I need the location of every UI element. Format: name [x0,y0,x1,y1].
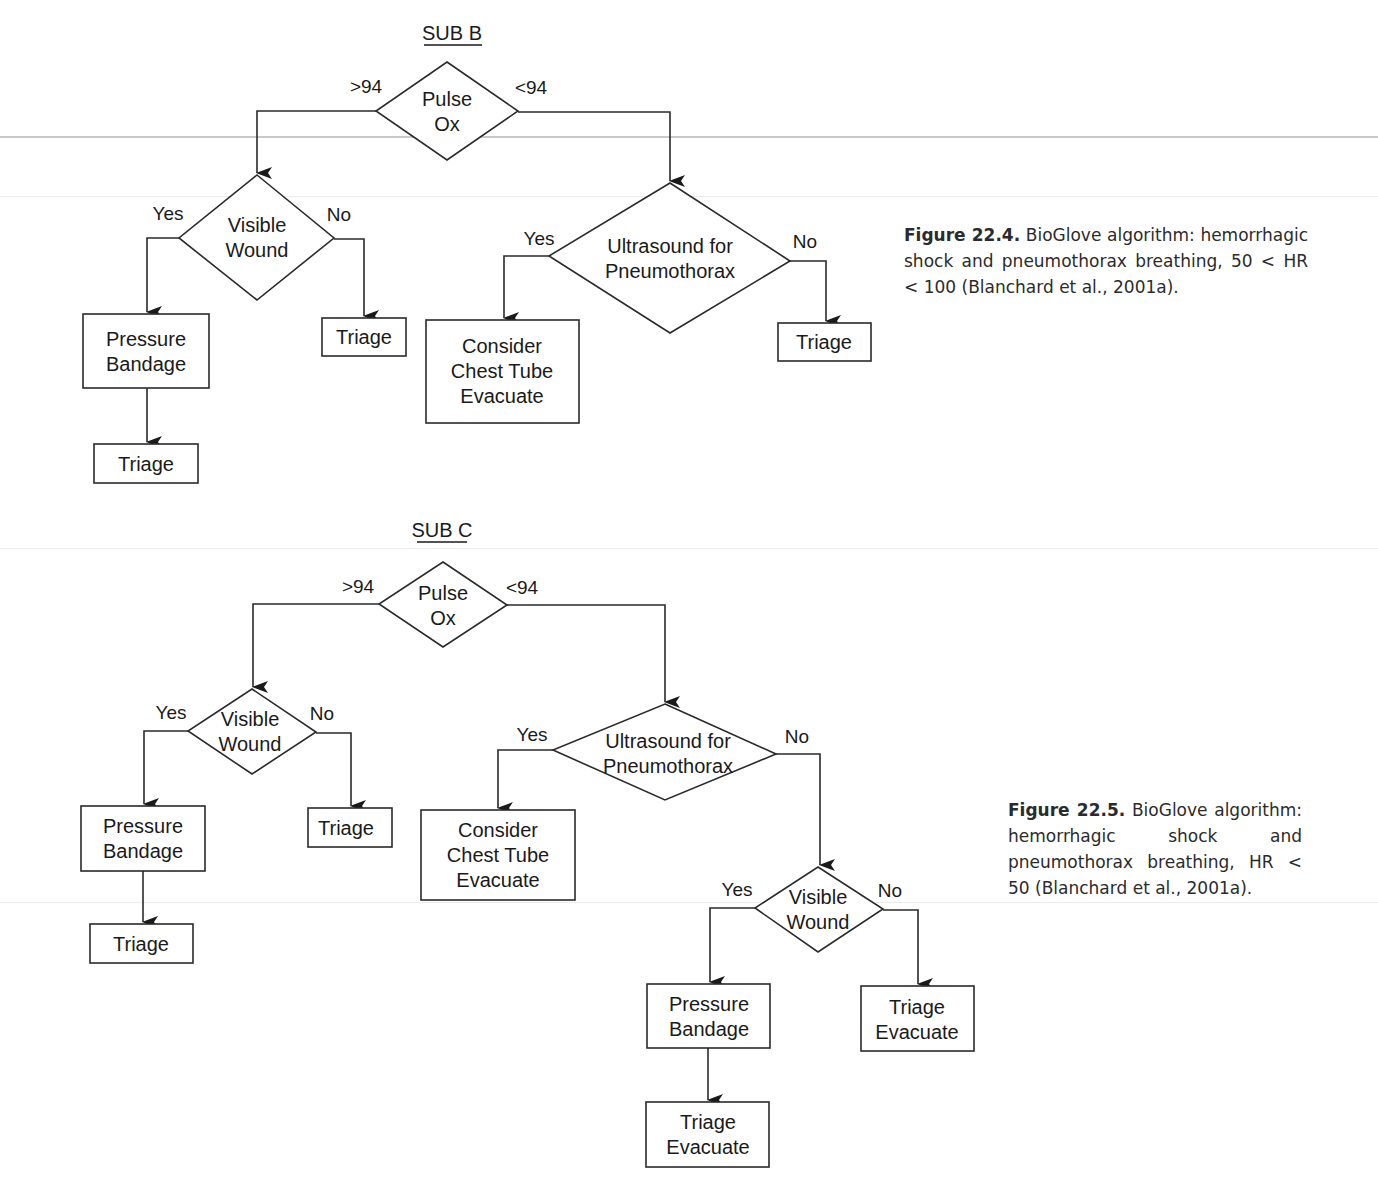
arrow-no [776,754,820,865]
svg-text:Visible: Visible [221,708,280,730]
svg-text:Pressure: Pressure [106,328,186,350]
svg-text:Visible: Visible [228,214,287,236]
svg-text:Bandage: Bandage [669,1018,749,1040]
edge-label-no: No [327,204,351,225]
pressure-bandage-box: Pressure Bandage [83,314,209,388]
svg-text:Pneumothorax: Pneumothorax [605,260,735,282]
chest-tube-box: Consider Chest Tube Evacuate [421,810,575,900]
svg-text:Ox: Ox [434,113,460,135]
arrow-no [316,733,351,806]
svg-text:Consider: Consider [462,335,542,357]
visible-wound-decision: Visible Wound [179,175,334,300]
figure-22-5-flowchart: SUB C Pulse Ox >94 <94 Visible Wound Yes… [81,519,974,1167]
edge-label-gt94: >94 [342,576,375,597]
svg-text:Bandage: Bandage [106,353,186,375]
svg-text:Triage: Triage [889,996,945,1018]
svg-text:Ultrasound for: Ultrasound for [607,235,733,257]
ultrasound-decision: Ultrasound for Pneumothorax [553,704,776,800]
figure-22-5-caption: Figure 22.5. BioGlove algorithm: hemorrh… [1008,797,1302,901]
visible-wound-decision-left: Visible Wound [188,689,316,774]
arrow-gt94 [257,111,376,173]
edge-label-no: No [878,880,902,901]
edge-label-yes: Yes [524,228,555,249]
svg-text:Pressure: Pressure [669,993,749,1015]
triage-box-left-no: Triage [308,808,392,847]
arrow-no [790,261,826,321]
triage-box-no-pneumothorax: Triage [778,323,871,361]
svg-text:Ox: Ox [430,607,456,629]
svg-text:Triage: Triage [318,817,374,839]
edge-label-yes: Yes [722,879,753,900]
visible-wound-decision-right: Visible Wound [755,867,883,952]
arrow-yes [504,256,549,318]
arrow-yes [147,238,179,312]
svg-text:Pulse: Pulse [418,582,468,604]
svg-text:Triage: Triage [796,331,852,353]
triage-evacuate-box-bottom: Triage Evacuate [646,1102,769,1167]
svg-text:Triage: Triage [118,453,174,475]
svg-text:Wound: Wound [218,733,281,755]
edge-label-no: No [785,726,809,747]
arrow-yes [144,731,188,804]
svg-text:Evacuate: Evacuate [460,385,543,407]
svg-text:Pneumothorax: Pneumothorax [603,755,733,777]
pulse-ox-decision: Pulse Ox [376,62,518,160]
svg-text:Chest Tube: Chest Tube [451,360,553,382]
svg-text:Bandage: Bandage [103,840,183,862]
flowcharts: SUB B Pulse Ox >94 <94 Visible Wound Yes… [0,0,1378,1203]
svg-text:Triage: Triage [336,326,392,348]
arrow-no [334,239,364,316]
edge-label-gt94: >94 [350,76,383,97]
arrow-lt94 [518,112,670,181]
edge-label-yes: Yes [517,724,548,745]
ultrasound-decision: Ultrasound for Pneumothorax [549,183,790,333]
figure-22-4-caption: Figure 22.4. BioGlove algorithm: hemorrh… [904,222,1308,300]
edge-label-no: No [310,703,334,724]
svg-text:Ultrasound for: Ultrasound for [605,730,731,752]
caption-label: Figure 22.4. [904,225,1020,245]
arrow-yes [710,908,755,982]
triage-box-no-wound: Triage [322,318,406,356]
svg-text:Evacuate: Evacuate [875,1021,958,1043]
caption-label: Figure 22.5. [1008,800,1125,820]
figure-22-4-flowchart: SUB B Pulse Ox >94 <94 Visible Wound Yes… [83,22,871,483]
arrow-yes [498,750,553,808]
pressure-bandage-box-right: Pressure Bandage [647,984,770,1048]
sub-c-title: SUB C [411,519,472,541]
arrow-lt94 [507,605,665,702]
edge-label-lt94: <94 [506,577,539,598]
svg-text:Chest Tube: Chest Tube [447,844,549,866]
svg-text:Triage: Triage [680,1111,736,1133]
svg-text:Wound: Wound [225,239,288,261]
triage-evacuate-box-no: Triage Evacuate [861,986,974,1051]
svg-text:Triage: Triage [113,933,169,955]
svg-text:Pulse: Pulse [422,88,472,110]
svg-text:Consider: Consider [458,819,538,841]
pressure-bandage-box-left: Pressure Bandage [81,806,205,871]
triage-box: Triage [94,444,198,483]
svg-text:Wound: Wound [786,911,849,933]
arrow-gt94 [253,604,379,687]
edge-label-yes: Yes [153,203,184,224]
svg-text:Visible: Visible [789,886,848,908]
pulse-ox-decision: Pulse Ox [379,562,507,647]
svg-text:Evacuate: Evacuate [456,869,539,891]
svg-text:Pressure: Pressure [103,815,183,837]
edge-label-yes: Yes [156,702,187,723]
edge-label-no: No [793,231,817,252]
edge-label-lt94: <94 [515,77,548,98]
chest-tube-box: Consider Chest Tube Evacuate [426,320,579,423]
sub-b-title: SUB B [422,22,482,44]
arrow-no [883,910,918,984]
triage-box-left-bottom: Triage [90,924,193,963]
svg-text:Evacuate: Evacuate [666,1136,749,1158]
